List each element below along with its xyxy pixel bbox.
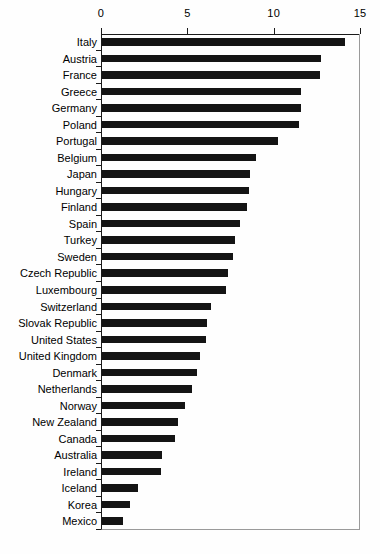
category-label: Australia [54, 449, 97, 461]
bar [102, 170, 250, 178]
category-label: Iceland [62, 482, 97, 494]
category-label: Korea [68, 499, 97, 511]
bar [102, 517, 123, 525]
category-label: United Kingdom [19, 350, 97, 362]
category-label: Spain [69, 218, 97, 230]
bar-row: Italy [0, 34, 380, 51]
x-axis-tick-label: 15 [354, 8, 367, 19]
category-label: Switzerland [40, 301, 97, 313]
bar [102, 187, 249, 195]
x-axis-tick-label: 10 [267, 8, 280, 19]
category-label: New Zealand [32, 416, 97, 428]
bar-row: France [0, 67, 380, 84]
bar-row: Austria [0, 51, 380, 68]
bar [102, 369, 197, 377]
bar-row: Poland [0, 117, 380, 134]
bar-row: Belgium [0, 150, 380, 167]
bar [102, 435, 175, 443]
bar [102, 402, 185, 410]
bar-row: Greece [0, 84, 380, 101]
category-label: Luxembourg [36, 284, 97, 296]
category-label: Czech Republic [20, 267, 97, 279]
category-label: Ireland [63, 466, 97, 478]
bar [102, 451, 162, 459]
bar-row: Japan [0, 166, 380, 183]
bar-row: Netherlands [0, 381, 380, 398]
bar-row: Ireland [0, 464, 380, 481]
category-label: Sweden [57, 251, 97, 263]
bar [102, 319, 207, 327]
bar [102, 38, 345, 46]
bar-row: Sweden [0, 249, 380, 266]
bar [102, 336, 206, 344]
bar-row: Australia [0, 447, 380, 464]
bar-row: United States [0, 332, 380, 349]
bar-row: Germany [0, 100, 380, 117]
bar-row: United Kingdom [0, 348, 380, 365]
bar-row: Portugal [0, 133, 380, 150]
bar-row: New Zealand [0, 414, 380, 431]
bar [102, 418, 178, 426]
bar-row: Spain [0, 216, 380, 233]
category-label: Italy [77, 36, 97, 48]
bar [102, 352, 200, 360]
x-axis: 051015 [0, 0, 380, 35]
bar-row: Finland [0, 199, 380, 216]
bar [102, 88, 301, 96]
category-label: United States [31, 334, 97, 346]
bar-row: Slovak Republic [0, 315, 380, 332]
bar-row: Norway [0, 398, 380, 415]
category-label: Mexico [62, 515, 97, 527]
bar-row: Luxembourg [0, 282, 380, 299]
bar-row: Switzerland [0, 299, 380, 316]
bar-rows: ItalyAustriaFranceGreeceGermanyPolandPor… [0, 34, 380, 530]
category-label: Netherlands [38, 383, 97, 395]
category-label: Belgium [57, 152, 97, 164]
category-label: France [63, 69, 97, 81]
bar [102, 154, 256, 162]
bar [102, 71, 320, 79]
bar-row: Mexico [0, 513, 380, 530]
bar [102, 137, 278, 145]
bar-row: Iceland [0, 480, 380, 497]
bar [102, 468, 161, 476]
bar-row: Denmark [0, 365, 380, 382]
category-label: Hungary [55, 185, 97, 197]
bar [102, 286, 226, 294]
bar [102, 121, 299, 129]
category-label: Norway [60, 400, 97, 412]
bar-row: Canada [0, 431, 380, 448]
bar [102, 236, 235, 244]
bar [102, 104, 301, 112]
category-label: Germany [52, 102, 97, 114]
x-axis-tick-label: 5 [184, 8, 190, 19]
category-label: Greece [61, 86, 97, 98]
bar [102, 55, 321, 63]
bar [102, 253, 233, 261]
category-label: Denmark [52, 367, 97, 379]
category-label: Finland [61, 201, 97, 213]
bar [102, 501, 130, 509]
bar-row: Turkey [0, 232, 380, 249]
category-label: Portugal [56, 135, 97, 147]
bar [102, 269, 228, 277]
bar-row: Hungary [0, 183, 380, 200]
bar [102, 303, 211, 311]
category-label: Turkey [64, 234, 97, 246]
category-label: Japan [67, 168, 97, 180]
category-label: Canada [58, 433, 97, 445]
y-axis-tick-mark [96, 529, 101, 530]
category-label: Slovak Republic [18, 317, 97, 329]
bar [102, 203, 247, 211]
category-label: Austria [63, 53, 97, 65]
bar-row: Korea [0, 497, 380, 514]
bar-row: Czech Republic [0, 265, 380, 282]
x-axis-tick-label: 0 [98, 8, 104, 19]
bar [102, 220, 240, 228]
bar [102, 484, 138, 492]
bar [102, 385, 192, 393]
category-label: Poland [63, 119, 97, 131]
horizontal-bar-chart: 051015 ItalyAustriaFranceGreeceGermanyPo… [0, 0, 380, 554]
